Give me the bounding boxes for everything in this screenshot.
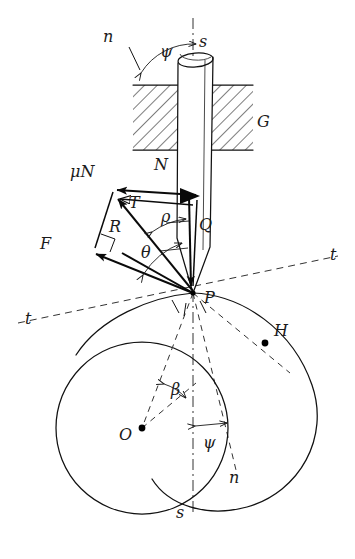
label-force-F: F: [39, 234, 52, 253]
label-point-H: H: [273, 321, 289, 340]
point-P-marker: [190, 290, 195, 295]
label-angle-rho: ρ: [160, 207, 171, 226]
point-H-marker: [262, 340, 269, 347]
label-force-T: T: [129, 193, 141, 212]
point-O-marker: [139, 425, 146, 432]
label-t-right: t: [330, 245, 337, 264]
label-t-left: t: [25, 309, 32, 328]
label-point-O: O: [119, 425, 132, 444]
label-s-top: s: [199, 32, 207, 51]
label-angle-beta: β: [170, 380, 180, 399]
label-force-Q: Q: [199, 215, 212, 234]
label-angle-psi-bottom: ψ: [203, 433, 216, 452]
label-s-bottom: s: [176, 503, 184, 522]
label-n-top: n: [103, 27, 113, 46]
label-point-P: P: [203, 288, 215, 307]
label-force-muN: μN: [70, 162, 95, 181]
label-force-R: R: [108, 217, 121, 236]
label-psi-top: ψ: [160, 42, 173, 61]
mechanics-diagram: n s ψ G μN N T R F Q ρ θ P H O β ψ n s t…: [0, 0, 355, 559]
label-n-bottom: n: [229, 468, 239, 487]
label-angle-theta: θ: [141, 243, 151, 262]
label-force-N: N: [153, 155, 169, 174]
label-block-G: G: [257, 112, 270, 131]
